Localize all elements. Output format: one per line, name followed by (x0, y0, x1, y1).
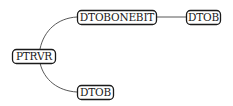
node-ptrvr: PTRVR (13, 50, 56, 64)
edge-root-to-dtobonebit (40, 17, 77, 49)
node-dtob-bottom: DTOB (78, 86, 114, 100)
node-label: DTOB (188, 11, 219, 23)
edge-root-to-dtob-bottom (40, 63, 77, 92)
node-label: PTRVR (16, 50, 53, 62)
node-label: DTOBONEBIT (80, 11, 154, 23)
node-dtob-right: DTOB (187, 11, 221, 25)
node-label: DTOB (80, 86, 111, 98)
node-dtobonebit: DTOBONEBIT (78, 11, 157, 25)
tree-diagram: PTRVR DTOBONEBIT DTOB DTOB (0, 0, 233, 106)
